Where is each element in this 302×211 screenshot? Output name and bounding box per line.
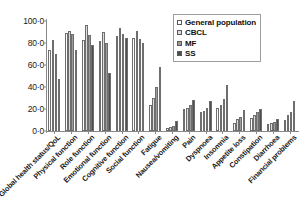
bar: [175, 121, 178, 131]
bar: [108, 73, 111, 131]
legend-swatch-icon: [177, 51, 182, 56]
bar-group: [281, 21, 298, 131]
y-tick-label: 0·0: [2, 126, 44, 136]
bar: [58, 79, 61, 131]
legend-label: CBCL: [185, 28, 207, 37]
bar: [125, 38, 128, 132]
chart-legend: General populationCBCLMFSS: [173, 14, 261, 62]
bar: [209, 101, 212, 131]
bar-group: [147, 21, 164, 131]
legend-item: SS: [177, 49, 256, 60]
bar: [192, 100, 195, 131]
y-tick-label: 40·0: [2, 82, 44, 92]
bar-group: [113, 21, 130, 131]
legend-item: MF: [177, 38, 256, 49]
legend-swatch-icon: [177, 30, 182, 35]
x-axis-labels: Global health status/QoLPhysical functio…: [46, 133, 298, 211]
legend-item: General population: [177, 17, 256, 28]
y-tick-label: 100·0: [2, 16, 44, 26]
bar-group: [130, 21, 147, 131]
bar-chart: 100·080·060·040·020·00·0 Global health s…: [0, 0, 302, 211]
y-tick-label: 60·0: [2, 60, 44, 70]
bar-group: [63, 21, 80, 131]
bar-group: [96, 21, 113, 131]
y-tick-label: 20·0: [2, 104, 44, 114]
bar: [293, 101, 296, 131]
legend-label: MF: [185, 39, 196, 48]
bar: [142, 43, 145, 131]
legend-label: SS: [185, 49, 195, 58]
bar: [159, 67, 162, 131]
bar: [276, 119, 279, 131]
bar-group: [80, 21, 97, 131]
legend-label: General population: [185, 18, 256, 27]
legend-swatch-icon: [177, 20, 182, 25]
legend-swatch-icon: [177, 41, 182, 46]
legend-item: CBCL: [177, 28, 256, 39]
y-tick-label: 80·0: [2, 38, 44, 48]
bar: [91, 45, 94, 131]
bar: [243, 110, 246, 131]
bar-group: [46, 21, 63, 131]
bar: [75, 50, 78, 131]
bar: [226, 85, 229, 131]
bar: [259, 109, 262, 131]
bar-group: [264, 21, 281, 131]
